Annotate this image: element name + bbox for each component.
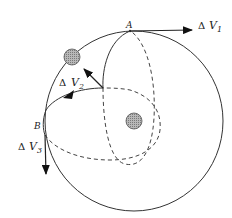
lower-orbit-dashed <box>45 88 160 160</box>
svg-text:Δ: Δ <box>18 141 25 152</box>
svg-text:2: 2 <box>78 82 84 91</box>
label-point-b: B <box>33 121 41 131</box>
delta-v2-arrow <box>84 69 103 88</box>
central-planet <box>126 113 142 129</box>
inclined-orbit-solid-arc <box>103 31 130 88</box>
delta-v1-arrow <box>130 30 192 31</box>
orbit-direction-arrowhead <box>63 90 74 99</box>
svg-text:Δ: Δ <box>198 20 205 31</box>
satellite <box>64 49 80 65</box>
svg-text:Δ: Δ <box>59 77 66 88</box>
label-delta-v2: Δ V 2 <box>59 76 84 91</box>
svg-text:1: 1 <box>217 25 222 34</box>
inclined-orbit-dashed <box>103 32 154 165</box>
transfer-orbit-solid-arc <box>43 88 103 135</box>
delta-v3-arrow <box>45 135 46 174</box>
orbit-diagram: A B Δ V 1 Δ V 2 Δ V 3 <box>0 0 232 218</box>
label-point-a: A <box>125 20 133 30</box>
label-delta-v3: Δ V 3 <box>18 140 42 155</box>
label-delta-v1: Δ V 1 <box>198 19 222 34</box>
svg-text:3: 3 <box>37 146 42 155</box>
